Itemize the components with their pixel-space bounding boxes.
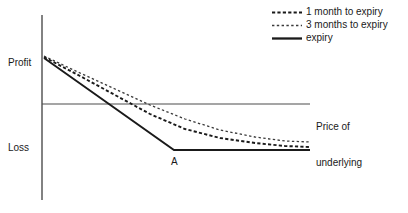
legend-entry-3-months: 3 months to expiry <box>270 19 408 31</box>
y-axis-label-loss: Loss <box>8 142 29 154</box>
legend-swatch-dashed-fine-icon <box>272 24 302 27</box>
x-axis-label-line-2: underlying <box>316 157 362 169</box>
series-line-1-month-to-expiry <box>44 57 310 147</box>
legend-swatch-solid-icon <box>272 37 302 40</box>
legend-label-3-months: 3 months to expiry <box>306 19 388 31</box>
x-axis-label-line-1: Price of <box>316 121 362 133</box>
legend-label-1-month: 1 month to expiry <box>306 6 383 18</box>
x-axis-label: Price of underlying <box>316 97 362 181</box>
legend-swatch-dashed-bold-icon <box>272 11 302 14</box>
legend-entry-expiry: expiry <box>270 32 408 44</box>
legend-entry-1-month: 1 month to expiry <box>270 6 408 18</box>
chart-legend: 1 month to expiry 3 months to expiry exp… <box>270 6 408 48</box>
annotation-point-a: A <box>171 156 178 168</box>
y-axis-label-profit: Profit <box>8 57 31 69</box>
series-line-3-months-to-expiry <box>44 56 310 142</box>
legend-label-expiry: expiry <box>306 32 333 44</box>
